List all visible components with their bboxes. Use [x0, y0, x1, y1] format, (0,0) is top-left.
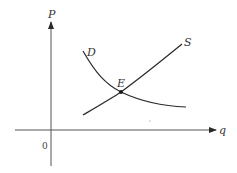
y-axis-label: P — [47, 8, 56, 21]
supply-curve — [83, 44, 182, 115]
stray-dot — [149, 120, 150, 121]
equilibrium-label: E — [116, 77, 125, 90]
demand-curve — [83, 51, 186, 107]
origin-label: 0 — [42, 141, 48, 151]
x-axis-label: q — [219, 124, 226, 137]
supply-label: S — [184, 36, 192, 49]
supply-demand-diagram: P q 0 D S E — [0, 0, 237, 173]
demand-label: D — [86, 46, 96, 59]
equilibrium-point — [119, 90, 123, 94]
